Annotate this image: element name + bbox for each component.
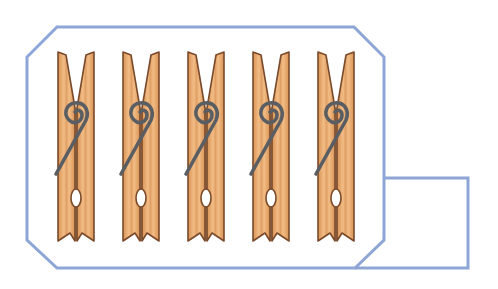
clothespin-row bbox=[56, 52, 354, 241]
clothespin-icon bbox=[251, 52, 289, 241]
clothespin-icon bbox=[121, 52, 159, 241]
clothespin-icon bbox=[316, 52, 354, 241]
clothespin-icon bbox=[186, 52, 224, 241]
side-rectangle-outline bbox=[355, 178, 468, 268]
clothespin-icon bbox=[56, 52, 94, 241]
clothespin-illustration bbox=[0, 0, 498, 289]
